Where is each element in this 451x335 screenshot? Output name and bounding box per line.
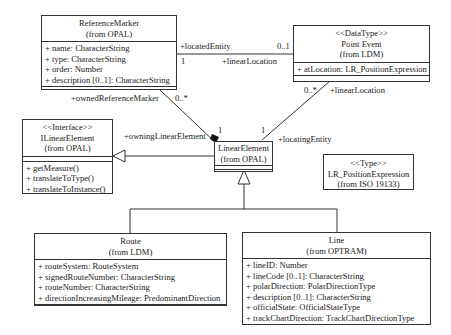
role-locating-entity: +locatingEntity [278, 134, 332, 144]
class-header: ReferenceMarker (from OPAL) [42, 16, 176, 42]
operation-compartment [294, 76, 429, 84]
operation-compartment [215, 170, 272, 173]
class-reference-marker[interactable]: ReferenceMarker (from OPAL) + name: Char… [41, 15, 177, 90]
class-name: Route [37, 236, 224, 247]
class-point-event[interactable]: <<DataType>> Point Event (from LDM) + at… [293, 25, 430, 82]
role-owning-linear-element: +owningLinearElement [124, 131, 206, 141]
attribute-compartment: + routeSystem: RouteSystem + signedRoute… [35, 260, 226, 305]
class-header: <<DataType>> Point Event (from LDM) [294, 26, 429, 63]
attribute: + officialState: OfficialStateType [246, 302, 428, 313]
class-name: Line [245, 235, 428, 246]
class-name: ILinearElement [25, 133, 110, 144]
class-stereotype: <<Type>> [326, 158, 411, 169]
class-package: (from OPAL) [44, 29, 174, 40]
class-name: ReferenceMarker [44, 18, 174, 29]
attribute: + type: CharacterString [45, 54, 174, 65]
multiplicity-locating-entity: 1 [261, 125, 265, 135]
attribute: + signedRouteNumber: CharacterString [38, 272, 224, 283]
class-linear-element[interactable]: LinearElement (from OPAL) [214, 141, 273, 172]
role-located-entity: +locatedEntity [180, 41, 231, 51]
attribute: + trackChartDirection: TrackChartDirecti… [246, 313, 428, 324]
class-header: LinearElement (from OPAL) [215, 142, 272, 166]
role-owned-reference-marker: +ownedReferenceMarker [71, 93, 159, 103]
class-package: (from ISO 19133) [326, 179, 411, 190]
class-package: (from LDM) [296, 49, 427, 60]
attribute: + routeSystem: RouteSystem [38, 261, 224, 272]
class-header: Route (from LDM) [35, 234, 226, 260]
operation: + translateToInstance() [26, 184, 110, 195]
operation-compartment: + getMeasure() + translateToType() + tra… [23, 162, 112, 196]
attribute-compartment: + atLocation: LR_PositionExpression [294, 63, 429, 77]
multiplicity-linear-location-right: 0..* [304, 85, 317, 95]
attribute: + directionIncreasingMileage: Predominan… [38, 293, 224, 304]
multiplicity-located-entity: 1 [181, 56, 185, 66]
operation-compartment [243, 325, 430, 333]
class-package: (from OPAL) [25, 143, 110, 154]
operation: + getMeasure() [26, 163, 110, 174]
class-package: (from OPTRAM) [245, 246, 428, 257]
class-package: (from OPAL) [216, 154, 271, 165]
class-header: <<Type>> LR_PositionExpression (from ISO… [324, 155, 413, 192]
operation-compartment [35, 305, 226, 313]
multiplicity-owning-linear-element: 1 [218, 125, 222, 135]
class-header: <<Interface>> ILinearElement (from OPAL) [23, 120, 112, 157]
multiplicity-owned-reference-marker: 0..* [175, 93, 188, 103]
attribute: + description [0..1]: CharacterString [246, 292, 428, 303]
interface-ilinear-element[interactable]: <<Interface>> ILinearElement (from OPAL)… [22, 119, 113, 194]
class-route[interactable]: Route (from LDM) + routeSystem: RouteSys… [34, 233, 227, 306]
class-name: LR_PositionExpression [326, 169, 411, 180]
role-linear-location-right: +linearLocation [330, 85, 385, 95]
attribute: + atLocation: LR_PositionExpression [297, 64, 427, 75]
class-header: Line (from OPTRAM) [243, 233, 430, 259]
operation: + translateToType() [26, 173, 110, 184]
attribute: + polarDirection: PolarDirectionType [246, 281, 428, 292]
attribute: + order: Number [45, 64, 174, 75]
type-lr-position-expression[interactable]: <<Type>> LR_PositionExpression (from ISO… [323, 154, 414, 190]
class-stereotype: <<DataType>> [296, 28, 427, 39]
attribute-compartment: + name: CharacterString + type: Characte… [42, 42, 176, 87]
multiplicity-linear-location-top: 0..1 [277, 41, 290, 51]
class-line[interactable]: Line (from OPTRAM) + lineID: Number + li… [242, 232, 431, 325]
attribute: + description [0..1]: CharacterString [45, 75, 174, 86]
class-name: LinearElement [216, 143, 271, 154]
class-stereotype: <<Interface>> [25, 122, 110, 133]
class-name: Point Event [296, 39, 427, 50]
attribute: + routeNumber: CharacterString [38, 282, 224, 293]
attribute-compartment: + lineID: Number + lineCode [0..1]: Char… [243, 259, 430, 325]
attribute: + name: CharacterString [45, 43, 174, 54]
attribute: + lineCode [0..1]: CharacterString [246, 271, 428, 282]
attribute: + lineID: Number [246, 260, 428, 271]
role-linear-location-top: +linearLocation [222, 56, 277, 66]
class-package: (from LDM) [37, 247, 224, 258]
